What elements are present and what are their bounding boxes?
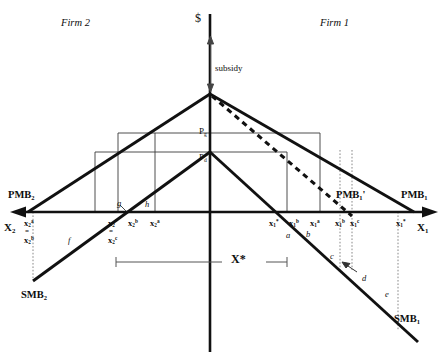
- price-gross-sub: g: [204, 131, 207, 137]
- construction-lines: [95, 133, 320, 212]
- pmb1-curve: [210, 94, 414, 212]
- pmb1-label: PMB1: [401, 190, 428, 201]
- smb2-label-text: SMB: [21, 289, 44, 300]
- smb1-curve: [210, 152, 418, 342]
- tick-x2-b-origin-sup: b: [31, 235, 34, 241]
- x2-axis-label-sub: 2: [12, 227, 15, 234]
- subsidy-arrow-icon: [207, 36, 213, 92]
- xstar-label: X*: [231, 253, 246, 265]
- pmb2-label-text: PMB: [8, 189, 31, 200]
- area-label-g: g: [117, 199, 121, 208]
- x1-axis-label-text: X: [417, 221, 425, 233]
- tick-x2-b-origin: x2b: [24, 236, 34, 245]
- pmb1-prime-label: PMB1': [336, 190, 366, 201]
- equals-marker-x2c: =: [109, 228, 113, 235]
- area-label-d: d: [362, 274, 366, 283]
- tick-x1-max: x1*: [396, 219, 406, 228]
- pmb2-curve: [28, 94, 210, 212]
- firm2-title: Firm 2: [61, 18, 90, 29]
- price-net-label: Pd: [199, 153, 207, 162]
- area-label-a: a: [286, 231, 290, 240]
- area-label-f: f: [68, 236, 70, 245]
- tick-x1-a-sup: a: [317, 218, 320, 224]
- tick-x1-c: x1c: [350, 219, 359, 228]
- tick-x2-b-sup: b: [135, 218, 138, 224]
- firm1-title: Firm 1: [320, 18, 349, 29]
- x1-axis-label-sub: 1: [425, 227, 428, 234]
- axis-arrow-left-icon: [10, 207, 26, 218]
- tick-x2-star-sup: *: [115, 218, 118, 224]
- area-label-e: e: [385, 290, 389, 299]
- equals-marker-left: =: [25, 228, 29, 235]
- price-net-sub: d: [204, 157, 207, 163]
- area-label-c: c: [330, 252, 334, 261]
- tick-x1-a: x1a: [310, 219, 320, 228]
- tick-x1-max-sup: *: [403, 218, 406, 224]
- pmb2-label-sub: 2: [31, 194, 34, 201]
- tick-x2-c: x2c: [108, 236, 117, 245]
- tick-x2-c-sup: c: [115, 235, 117, 241]
- tick-x2-a-sup: a: [157, 218, 160, 224]
- pmb1-label-text: PMB: [401, 189, 424, 200]
- tick-x1-star: x1*: [269, 219, 279, 228]
- tick-x1-star-sup: *: [276, 218, 279, 224]
- pmb1-prime-mark: ': [363, 189, 366, 200]
- pmb1-label-sub: 1: [424, 194, 427, 201]
- area-label-h: h: [145, 200, 149, 209]
- smb1-label-sub: 1: [417, 318, 420, 325]
- d-pointer-arrow-icon: [342, 262, 357, 272]
- pmb1-prime-label-text: PMB: [336, 189, 359, 200]
- tick-x2-a-origin-sup: a: [31, 218, 34, 224]
- tick-x1-d-sup: b: [342, 218, 345, 224]
- dollar-axis-label: $: [195, 12, 201, 24]
- tick-x2-a: x2a: [150, 219, 160, 228]
- smb1-label: SMB1: [394, 314, 420, 325]
- smb2-label: SMB2: [21, 290, 47, 301]
- tick-x1-b-sup: b: [296, 218, 299, 224]
- pmb1-prime-curve: [212, 96, 352, 216]
- price-gross-label: Pg: [199, 127, 207, 136]
- diagram-container: Firm 2 Firm 1 $ subsidy Pg Pd PMB2 SMB2 …: [0, 0, 447, 364]
- area-label-b: b: [306, 230, 310, 239]
- x1-axis-label: X1: [417, 222, 428, 233]
- smb2-label-sub: 2: [44, 294, 47, 301]
- tick-x1-b: x1b: [289, 219, 299, 228]
- tick-x1-d: x1b: [335, 219, 345, 228]
- diagram-canvas: [0, 0, 447, 364]
- smb1-label-text: SMB: [394, 313, 417, 324]
- pmb2-label: PMB2: [8, 190, 35, 201]
- subsidy-label: subsidy: [215, 64, 243, 73]
- tick-x2-b: x2b: [128, 219, 138, 228]
- axis-arrow-right-icon: [422, 207, 438, 218]
- x2-axis-label: X2: [4, 222, 15, 233]
- tick-x1-c-sup: c: [357, 218, 359, 224]
- x2-axis-label-text: X: [4, 221, 12, 233]
